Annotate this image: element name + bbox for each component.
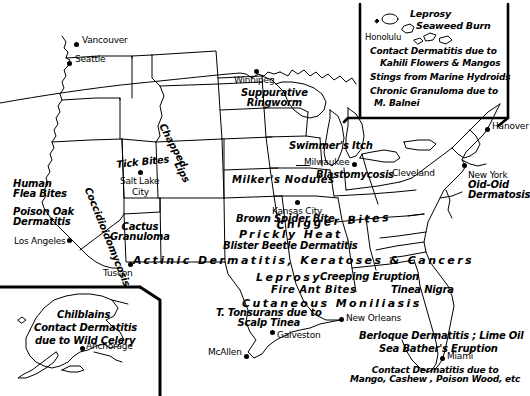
label-hawaii-contact-dermatitis: Contact Dermatitis due to: [370, 47, 497, 56]
city-dot-galveston: [270, 330, 275, 335]
nc-sc-tie: [408, 214, 424, 216]
label-blastomycosis: Blastomycosis: [316, 170, 394, 180]
label-florida-contact-dermatitis: Contact Dermatitis due to Mango, Cashew …: [350, 366, 520, 385]
island-niihau: [375, 19, 379, 23]
label-seaweed-burn: Seaweed Burn: [416, 21, 491, 31]
city-label-winnipeg: Winnipeg: [234, 75, 274, 85]
ga-line-2: [376, 242, 424, 250]
city-dot-miami: [440, 356, 445, 361]
label-leprosy-hawaii: Leprosy: [410, 9, 451, 19]
hawaii-frame-tail: [344, 118, 360, 122]
city-dot-seattle: [67, 61, 72, 66]
island-molokai: [414, 38, 423, 44]
city-label-seattle: Seattle: [75, 54, 105, 64]
label-actinic-dermatitis-keratoses-cancers: Actinic Dermatitis, Keratoses & Cancers: [133, 255, 474, 266]
city-label-hanover: Hanover: [492, 121, 529, 131]
ma-line: [452, 148, 470, 158]
label-m-balnei: M. Balnei: [374, 99, 419, 108]
city-label-milwaukee: Milwaukee: [304, 157, 350, 167]
city-label-salt-lake-city-2: City: [132, 187, 149, 197]
label-leprosy-south: Leprosy: [256, 272, 322, 283]
label-oid-oid-dermatosis: Oid-Oid Dermatosis: [468, 180, 530, 201]
city-label-mcallen: McAllen: [208, 347, 242, 357]
alaska-frame-right: [140, 287, 160, 396]
island-oahu: [402, 24, 414, 33]
island-hawaii: [440, 36, 452, 44]
border-mt-wy-east: [218, 78, 222, 139]
border-mt-nd: [152, 51, 218, 78]
milwaukee-leader-line: [296, 165, 310, 166]
lake-ontario: [404, 140, 436, 150]
label-suppurative-ringworm: Suppurative Ringworm: [241, 88, 308, 109]
border-or-ca: [52, 139, 122, 142]
label-fire-ant-bites: Fire Ant Bites: [271, 285, 357, 295]
label-cactus-granuloma: Cactus Granuloma: [110, 222, 170, 243]
alaska-small-island: [18, 317, 26, 323]
city-dot-hanover: [485, 127, 490, 132]
city-dot-winnipeg: [254, 69, 259, 74]
ia-il-vert: [306, 112, 308, 136]
label-blister-beetle-dermatitis: Blister Beetle Dermatitis: [223, 241, 358, 251]
border-id-nv: [122, 139, 156, 142]
city-dot-new-orleans: [339, 317, 344, 322]
city-dot-mcallen: [244, 354, 249, 359]
city-dot-milwaukee: [352, 162, 357, 167]
city-label-cleveland: Cleveland: [392, 168, 435, 178]
border-nm-tx: [224, 198, 225, 262]
lake-erie: [360, 150, 400, 162]
label-stings-marine-hydroids: Stings from Marine Hydroids: [370, 73, 510, 82]
sc-ga-line: [380, 232, 426, 238]
label-hawaii-kahili-flowers-mangos: Kahili Flowers & Mangos: [380, 59, 500, 68]
border-ne-ks: [222, 137, 272, 139]
border-ut-wy: [156, 142, 158, 198]
city-dot-salt-lake-city: [138, 170, 143, 175]
border-ok-tx: [224, 196, 282, 198]
alaska-southeast: [94, 352, 122, 362]
city-dot-kansas-city: [295, 200, 300, 205]
label-human-flea-bites: Human Flea Bites: [13, 179, 67, 200]
border-nv-az: [124, 198, 160, 214]
city-dot-vancouver: [74, 42, 79, 47]
city-label-vancouver: Vancouver: [82, 35, 128, 45]
city-dot-new-york: [462, 163, 467, 168]
city-label-los-angeles: Los Angeles: [14, 236, 66, 246]
island-maui: [424, 33, 436, 41]
ar-la: [274, 196, 338, 198]
label-prickly-heat: Prickly Heat: [239, 229, 343, 240]
label-chronic-granuloma: Chronic Granuloma due to: [370, 87, 498, 96]
ia-mo: [266, 136, 320, 138]
label-tinea-nigra: Tinea Nigra: [391, 285, 454, 295]
dermatologic-geography-map: Vancouver Seattle Winnipeg Honolulu Hano…: [0, 0, 530, 396]
label-chilblains: Chilblains: [57, 310, 110, 320]
label-alaska-contact-dermatitis: Contact Dermatitis: [34, 323, 137, 333]
label-poison-oak-dermatitis: Poison Oak Dermatitis: [13, 207, 74, 228]
label-sea-bathers-eruption: Sea Bather's Eruption: [379, 344, 498, 354]
alaska-peninsula: [18, 352, 58, 378]
city-dot-los-angeles: [67, 238, 72, 243]
island-kauai: [382, 14, 398, 24]
label-berloque-dermatitis-lime-oil: Berloque Dermatitis ; Lime Oil: [359, 331, 524, 341]
city-label-new-orleans: New Orleans: [346, 313, 401, 323]
city-label-honolulu: Honolulu: [365, 32, 401, 42]
chesapeake-tie: [440, 192, 462, 198]
border-wa-or: [62, 98, 120, 100]
city-label-galveston: Galveston: [277, 330, 320, 340]
label-t-tonsurans-scalp-tinea: T. Tonsurans due to Scalp Tinea: [216, 308, 322, 329]
city-dot-anchorage: [80, 346, 85, 351]
border-mt-wy-inner: [160, 84, 218, 86]
kodiak-island: [62, 366, 84, 372]
city-label-salt-lake: Salt Lake: [120, 176, 159, 186]
chesapeake-bay: [446, 190, 452, 218]
label-creeping-eruption: Creeping Eruption: [320, 272, 419, 282]
label-alaska-wild-celery: due to Wild Celery: [35, 336, 135, 346]
label-swimmers-itch: Swimmer's Itch: [289, 141, 373, 151]
